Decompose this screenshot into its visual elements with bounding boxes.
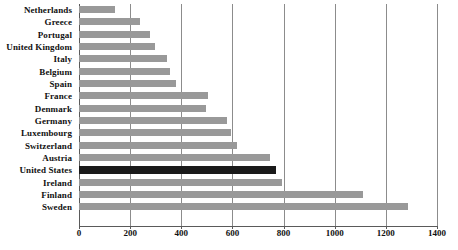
category-label-netherlands: Netherlands [0, 4, 75, 16]
bar-sweden [79, 203, 408, 210]
x-axis-line [79, 226, 438, 227]
x-tick-label-0: 0 [77, 228, 82, 238]
category-label-spain: Spain [0, 78, 75, 90]
bar-row [79, 41, 437, 53]
plot-area [79, 4, 437, 226]
gridline-1400 [437, 4, 438, 226]
category-label-portugal: Portugal [0, 29, 75, 41]
x-tick-label-600: 600 [226, 228, 240, 238]
bar-row [79, 53, 437, 65]
category-label-ireland: Ireland [0, 177, 75, 189]
bar-row [79, 164, 437, 176]
x-axis-tick-labels: 0200400600800100012001400 [0, 228, 458, 246]
category-label-united-kingdom: United Kingdom [0, 41, 75, 53]
x-tick-label-1200: 1200 [377, 228, 395, 238]
bar-germany [79, 117, 227, 124]
bar-row [79, 103, 437, 115]
bar-row [79, 29, 437, 41]
bar-row [79, 127, 437, 139]
bar-finland [79, 191, 363, 198]
x-tick-label-800: 800 [277, 228, 291, 238]
bar-france [79, 92, 208, 99]
x-tick-label-200: 200 [123, 228, 137, 238]
category-label-sweden: Sweden [0, 201, 75, 213]
bar-row [79, 78, 437, 90]
bar-row [79, 189, 437, 201]
bar-austria [79, 154, 270, 161]
bar-row [79, 115, 437, 127]
bar-row [79, 90, 437, 102]
category-label-finland: Finland [0, 189, 75, 201]
category-label-denmark: Denmark [0, 103, 75, 115]
bar-rows [79, 4, 437, 226]
category-label-luxembourg: Luxembourg [0, 127, 75, 139]
category-label-italy: Italy [0, 53, 75, 65]
category-label-switzerland: Switzerland [0, 140, 75, 152]
bar-united-kingdom [79, 43, 155, 50]
bar-spain [79, 80, 176, 87]
bar-row [79, 201, 437, 213]
x-tick-label-1000: 1000 [326, 228, 344, 238]
bar-greece [79, 18, 140, 25]
category-label-belgium: Belgium [0, 66, 75, 78]
bar-italy [79, 55, 167, 62]
category-label-greece: Greece [0, 16, 75, 28]
category-axis-labels: NetherlandsGreecePortugalUnited KingdomI… [0, 4, 75, 226]
bar-denmark [79, 105, 206, 112]
category-label-germany: Germany [0, 115, 75, 127]
category-label-united-states: United States [0, 164, 75, 176]
bar-chart: NetherlandsGreecePortugalUnited KingdomI… [0, 0, 458, 250]
bar-luxembourg [79, 129, 231, 136]
bar-row [79, 16, 437, 28]
bar-row [79, 152, 437, 164]
bar-switzerland [79, 142, 237, 149]
bar-belgium [79, 68, 170, 75]
bar-row [79, 177, 437, 189]
x-tick-label-400: 400 [175, 228, 189, 238]
bar-row [79, 66, 437, 78]
category-label-france: France [0, 90, 75, 102]
bar-row [79, 140, 437, 152]
bar-row [79, 4, 437, 16]
x-tick-label-1400: 1400 [428, 228, 446, 238]
bar-netherlands [79, 6, 115, 13]
bar-ireland [79, 179, 282, 186]
bar-portugal [79, 31, 150, 38]
category-label-austria: Austria [0, 152, 75, 164]
bar-united-states [79, 166, 276, 174]
